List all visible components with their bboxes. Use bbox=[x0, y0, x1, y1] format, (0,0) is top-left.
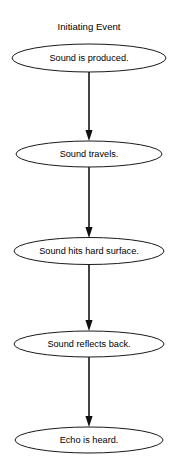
edge-node1-node2 bbox=[85, 72, 92, 141]
node-label: Sound hits hard surface. bbox=[39, 246, 139, 256]
node-label: Sound travels. bbox=[60, 149, 119, 159]
edge-node3-node4 bbox=[85, 265, 92, 331]
node-label: Sound reflects back. bbox=[47, 339, 130, 349]
arrow-head-icon bbox=[85, 130, 92, 141]
arrow-head-icon bbox=[85, 227, 92, 238]
flowchart-canvas: Initiating Event Sound is produced. bbox=[0, 0, 178, 467]
node-sound-reflects-back: Sound reflects back. bbox=[14, 331, 164, 357]
node-label: Echo is heard. bbox=[60, 435, 119, 445]
arrow-head-icon bbox=[85, 416, 92, 427]
arrow-head-icon bbox=[85, 320, 92, 331]
flowchart-diagram: Initiating Event Sound is produced. bbox=[0, 0, 178, 467]
diagram-title: Initiating Event bbox=[58, 21, 121, 32]
edge-node2-node3 bbox=[85, 167, 92, 238]
node-sound-hits-hard-surface: Sound hits hard surface. bbox=[14, 238, 164, 265]
node-echo-is-heard: Echo is heard. bbox=[15, 427, 163, 453]
edge-node4-node5 bbox=[85, 357, 92, 427]
node-sound-travels: Sound travels. bbox=[16, 141, 162, 167]
node-label: Sound is produced. bbox=[49, 53, 128, 63]
node-sound-is-produced: Sound is produced. bbox=[12, 44, 166, 72]
